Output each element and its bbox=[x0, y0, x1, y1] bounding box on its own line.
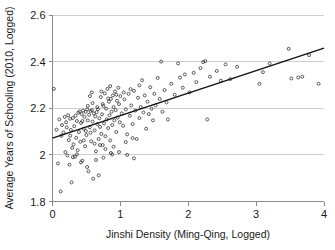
data-point bbox=[177, 62, 180, 65]
data-point bbox=[87, 170, 90, 173]
data-point bbox=[103, 122, 106, 125]
data-point bbox=[88, 113, 91, 116]
data-point bbox=[118, 151, 121, 154]
data-point bbox=[131, 123, 134, 126]
data-point bbox=[101, 113, 104, 116]
data-point bbox=[102, 104, 105, 107]
data-point bbox=[100, 132, 103, 135]
data-point bbox=[75, 153, 78, 156]
data-point bbox=[153, 92, 156, 95]
data-point bbox=[118, 121, 121, 124]
data-point bbox=[83, 115, 86, 118]
data-point bbox=[89, 131, 92, 134]
data-point bbox=[122, 124, 125, 127]
data-point bbox=[93, 142, 96, 145]
data-point bbox=[141, 79, 144, 82]
data-point bbox=[61, 124, 64, 127]
data-point bbox=[68, 163, 71, 166]
data-points bbox=[52, 47, 320, 193]
data-point bbox=[137, 96, 140, 99]
data-point bbox=[224, 63, 227, 66]
data-point bbox=[107, 127, 110, 130]
data-point bbox=[104, 148, 107, 151]
data-point bbox=[90, 140, 93, 143]
data-point bbox=[84, 145, 87, 148]
data-point bbox=[97, 138, 100, 141]
data-point bbox=[127, 92, 130, 95]
data-point bbox=[113, 119, 116, 122]
data-point bbox=[161, 110, 164, 113]
y-tick-label: 2.4 bbox=[30, 56, 45, 68]
data-point bbox=[301, 75, 304, 78]
data-point bbox=[138, 84, 141, 87]
data-point bbox=[132, 89, 135, 92]
data-point bbox=[183, 73, 186, 76]
data-point bbox=[150, 107, 153, 110]
data-point bbox=[82, 139, 85, 142]
data-point bbox=[142, 111, 145, 114]
y-tick-label: 2 bbox=[39, 149, 45, 161]
data-point bbox=[88, 95, 91, 98]
data-point bbox=[181, 86, 184, 89]
data-point bbox=[58, 118, 61, 121]
data-point bbox=[149, 86, 152, 89]
data-point bbox=[112, 145, 115, 148]
data-point bbox=[102, 156, 105, 159]
data-point bbox=[122, 91, 125, 94]
data-point bbox=[195, 81, 198, 84]
data-point bbox=[91, 120, 94, 123]
data-point bbox=[90, 91, 93, 94]
data-point bbox=[65, 126, 68, 129]
scatter-chart: 1.822.22.42.6 01234 Jinshi Density (Ming… bbox=[0, 0, 335, 250]
data-point bbox=[199, 67, 202, 70]
data-point bbox=[80, 113, 83, 116]
data-point bbox=[67, 139, 70, 142]
data-point bbox=[109, 139, 112, 142]
data-point bbox=[109, 85, 112, 88]
data-point bbox=[115, 99, 118, 102]
data-point bbox=[145, 127, 148, 130]
data-point bbox=[75, 136, 78, 139]
data-point bbox=[258, 82, 261, 85]
data-point bbox=[268, 62, 271, 65]
data-point bbox=[128, 114, 131, 117]
data-point bbox=[130, 104, 133, 107]
data-point bbox=[110, 110, 113, 113]
data-point bbox=[208, 75, 211, 78]
data-point bbox=[111, 94, 114, 97]
data-point bbox=[75, 120, 78, 123]
data-point bbox=[98, 117, 101, 120]
data-point bbox=[72, 143, 75, 146]
data-point bbox=[65, 121, 68, 124]
data-point bbox=[132, 157, 135, 160]
data-point bbox=[115, 93, 118, 96]
x-tick-label: 3 bbox=[253, 208, 259, 220]
data-point bbox=[147, 113, 150, 116]
data-point bbox=[111, 124, 114, 127]
data-point bbox=[103, 92, 106, 95]
plot-canvas: 1.822.22.42.6 01234 Jinshi Density (Ming… bbox=[0, 0, 335, 250]
data-point bbox=[146, 100, 149, 103]
data-point bbox=[135, 138, 138, 141]
data-point bbox=[84, 130, 87, 133]
y-axis-ticks: 1.822.22.42.6 bbox=[30, 9, 52, 208]
data-point bbox=[118, 103, 121, 106]
data-point bbox=[94, 150, 97, 153]
data-point bbox=[317, 82, 320, 85]
data-point bbox=[59, 190, 62, 193]
data-point bbox=[104, 135, 107, 138]
data-point bbox=[86, 166, 89, 169]
data-point bbox=[163, 89, 166, 92]
data-point bbox=[131, 137, 134, 140]
data-point bbox=[101, 103, 104, 106]
data-point bbox=[297, 76, 300, 79]
data-point bbox=[108, 114, 111, 117]
data-point bbox=[107, 100, 110, 103]
data-point bbox=[64, 151, 67, 154]
data-point bbox=[105, 107, 108, 110]
data-point bbox=[192, 71, 195, 74]
data-point bbox=[113, 90, 116, 93]
data-point bbox=[126, 133, 129, 136]
data-point bbox=[138, 117, 141, 120]
data-point bbox=[287, 47, 290, 50]
